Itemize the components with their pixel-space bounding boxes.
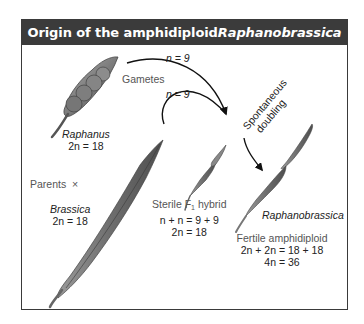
hybrid-label: Sterile F1 hybrid n + n = 9 + 9 2n = 18 <box>152 198 227 238</box>
brassica-label: Brassica 2n = 18 <box>50 203 90 227</box>
diagram-artwork <box>0 0 364 324</box>
raphanus-label: Raphanus 2n = 18 <box>62 128 110 152</box>
parents-label: Parents × <box>30 178 78 190</box>
amphidiploid-label: Fertile amphidiploid 2n + 2n = 18 + 18 4… <box>227 232 337 268</box>
cross-icon: × <box>72 178 78 190</box>
gametes-label: Gametes <box>122 73 165 85</box>
raphanobrassica-label: Raphanobrassica <box>262 209 344 221</box>
raphanus-pod-icon <box>52 57 118 137</box>
gamete-top-label: n = 9 <box>166 52 190 64</box>
gamete-bottom-label: n = 9 <box>166 88 190 100</box>
